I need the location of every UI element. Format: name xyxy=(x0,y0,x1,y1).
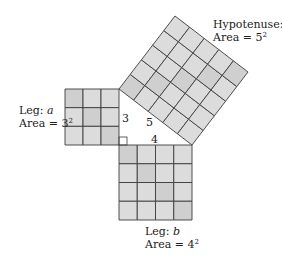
square-leg-a xyxy=(65,89,119,145)
grid-cell xyxy=(83,89,101,108)
leg-a-var: a xyxy=(47,104,54,117)
grid-cell xyxy=(174,201,192,220)
grid-cell xyxy=(137,183,155,202)
grid-cell xyxy=(101,126,119,145)
grid-cell xyxy=(101,89,119,108)
grid-cell xyxy=(174,164,192,183)
leg-b-name: Leg: xyxy=(145,225,173,238)
grid-cell xyxy=(174,183,192,202)
square-leg-b xyxy=(119,145,192,220)
hypotenuse-area-prefix: Area = xyxy=(213,31,255,44)
side-a-length: 3 xyxy=(122,112,129,125)
grid-cell xyxy=(101,108,119,127)
leg-b-var: b xyxy=(173,225,180,238)
side-b-length: 4 xyxy=(151,133,158,146)
right-angle-marker xyxy=(119,137,127,145)
leg-a-name: Leg: xyxy=(19,104,47,117)
hypotenuse-label: Hypotenuse: c Area = 52 xyxy=(213,18,282,44)
grid-cell xyxy=(156,145,174,164)
grid-cell xyxy=(137,145,155,164)
leg-a-area-exp: 2 xyxy=(68,117,72,125)
leg-b-area-exp: 2 xyxy=(194,238,198,246)
grid-cell xyxy=(119,164,137,183)
grid-cell xyxy=(119,145,137,164)
grid-cell xyxy=(119,183,137,202)
hypotenuse-area-exp: 2 xyxy=(262,31,266,39)
grid-cell xyxy=(156,164,174,183)
grid-cell xyxy=(83,126,101,145)
grid-cell xyxy=(174,145,192,164)
grid-cell xyxy=(119,201,137,220)
grid-cell xyxy=(137,201,155,220)
grid-cell xyxy=(156,201,174,220)
leg-b-label: Leg: b Area = 42 xyxy=(145,225,199,251)
grid-cell xyxy=(83,108,101,127)
hypotenuse-name: Hypotenuse: xyxy=(213,18,282,31)
grid-cell xyxy=(137,164,155,183)
leg-a-area-prefix: Area = xyxy=(19,117,61,130)
grid-cell xyxy=(156,183,174,202)
side-c-length: 5 xyxy=(146,116,153,129)
leg-b-area-prefix: Area = xyxy=(145,238,187,251)
leg-a-label: Leg: a Area = 32 xyxy=(19,104,73,130)
